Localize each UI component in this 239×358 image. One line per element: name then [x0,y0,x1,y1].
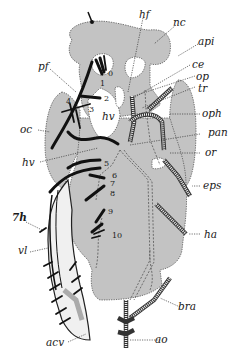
label-ha: ha [204,228,217,240]
anatomical-diagram: hf nc api ce op tr pf oph oc hv pan or h… [0,0,239,358]
label-oph: oph [202,107,222,119]
label-ce: ce [192,58,204,70]
central-body [67,118,186,300]
num-9: 9 [108,207,113,216]
num-1: 1 [100,79,105,88]
label-oc: oc [20,123,32,135]
label-api: api [198,35,214,47]
arch-2 [80,96,100,98]
num-2: 2 [104,94,109,103]
num-5: 5 [104,159,109,168]
label-op: op [196,70,209,82]
num-0: 0 [108,69,113,78]
num-7: 7 [110,179,115,188]
label-pan: pan [208,126,228,138]
label-ao: ao [155,333,168,345]
label-7h: 7h [12,211,27,223]
label-hv-lower: hv [22,156,35,168]
label-hv-upper: hv [102,110,115,122]
label-hf: hf [139,8,152,20]
label-nc: nc [173,16,186,28]
label-or: or [205,146,217,158]
label-vl: vl [18,244,27,256]
top-marker-dot [90,20,94,24]
label-tr: tr [198,82,208,94]
label-eps: eps [203,179,222,191]
num-4: 4 [66,97,71,106]
num-8: 8 [110,189,115,198]
label-pf: pf [38,60,51,72]
label-acv: acv [46,336,64,348]
label-bra: bra [178,300,196,312]
num-10: 10 [112,231,122,240]
num-3: 3 [89,105,94,114]
